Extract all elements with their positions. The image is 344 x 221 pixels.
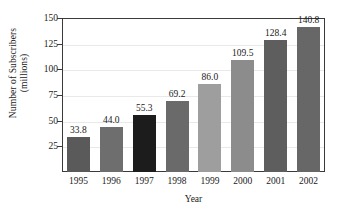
y-axis-tick-mark [57,44,62,45]
y-axis-tick-labels: 255075100125150 [28,18,58,172]
bar-value-label: 69.2 [155,89,199,99]
bar [67,137,90,172]
bar [297,27,320,172]
y-axis-tick-label: 100 [28,64,58,74]
x-axis-tick-labels: 19951996199719981999200020012002 [62,176,325,190]
bar-value-label: 44.0 [89,115,133,125]
bar-value-label: 128.4 [254,28,298,38]
y-axis-tick-mark [57,18,62,19]
bar [100,127,123,172]
y-axis-tick-mark [57,95,62,96]
y-axis-tick-label: 125 [28,39,58,49]
bar-value-label: 86.0 [188,72,232,82]
y-axis-tick-label: 25 [28,141,58,151]
bar-value-label: 33.8 [56,125,100,135]
bar-chart: Number of Subscribers (millions) 2550751… [0,0,344,221]
x-axis-title: Year [62,193,325,205]
bar [198,84,221,172]
y-axis-tick-label: 75 [28,90,58,100]
bar-value-label: 55.3 [122,103,166,113]
bar-value-label: 140.8 [287,15,331,25]
y-axis-tick-mark [57,69,62,70]
bar [231,60,254,172]
y-axis-tick-mark [57,146,62,147]
bar-value-label: 109.5 [221,48,265,58]
y-axis-tick-mark [57,121,62,122]
y-axis-tick-label: 150 [28,13,58,23]
x-axis-tick-label: 2002 [289,176,329,187]
bar [166,101,189,172]
bar [133,115,156,172]
bars-layer: 33.844.055.369.286.0109.5128.4140.8 [62,18,325,172]
y-axis-title-line-1: Number of Subscribers [8,28,19,118]
y-axis-tick-label: 50 [28,116,58,126]
bar [264,40,287,172]
